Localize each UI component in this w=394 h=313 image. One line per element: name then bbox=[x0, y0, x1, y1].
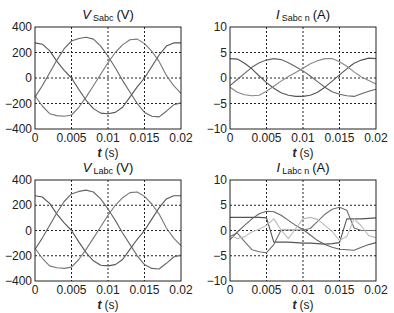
y-tick-label: −400 bbox=[5, 274, 32, 288]
x-tick-label: 0.02 bbox=[169, 131, 193, 145]
x-tick-label: 0.01 bbox=[96, 131, 120, 145]
y-tick-label: −400 bbox=[5, 122, 32, 136]
y-tick-label: −10 bbox=[207, 274, 228, 288]
x-axis-label: t(s) bbox=[293, 298, 314, 312]
y-tick-label: 200 bbox=[12, 46, 32, 60]
x-axis-label: t(s) bbox=[293, 146, 314, 160]
x-axis-label: t(s) bbox=[98, 146, 119, 160]
y-tick-label: 0 bbox=[220, 71, 227, 85]
chart-title: ILabc n(A) bbox=[277, 160, 330, 176]
x-axis-unit: (s) bbox=[300, 298, 314, 312]
y-tick-label: −200 bbox=[5, 249, 32, 263]
x-tick-label: 0.005 bbox=[251, 131, 281, 145]
chart-panel-source-current: ISabc n(A)00.0050.010.0150.02−10−50510t(… bbox=[207, 7, 388, 160]
chart-title: VSabc(V) bbox=[82, 7, 134, 23]
x-tick-label: 0 bbox=[32, 131, 39, 145]
title-unit: (V) bbox=[116, 160, 133, 175]
title-variable: I bbox=[276, 7, 280, 22]
chart-panel-load-current: ILabc n(A)00.0050.010.0150.02−10−50510t(… bbox=[207, 160, 388, 312]
title-variable: V bbox=[83, 160, 93, 175]
y-tick-label: −5 bbox=[213, 249, 227, 263]
y-tick-label: 0 bbox=[220, 224, 227, 238]
title-unit: (A) bbox=[312, 160, 329, 175]
title-subscript: Sabc n bbox=[282, 13, 310, 23]
title-subscript: Sabc bbox=[93, 13, 114, 23]
x-tick-label: 0.005 bbox=[56, 283, 86, 297]
x-axis-unit: (s) bbox=[105, 146, 119, 160]
title-variable: I bbox=[277, 160, 281, 175]
x-tick-label: 0.005 bbox=[56, 131, 86, 145]
figure: VSabc(V)00.0050.010.0150.02−400−20002004… bbox=[0, 0, 394, 313]
x-tick-label: 0.02 bbox=[364, 131, 388, 145]
title-unit: (V) bbox=[116, 7, 133, 22]
title-variable: V bbox=[82, 7, 92, 22]
x-axis-unit: (s) bbox=[105, 298, 119, 312]
y-tick-label: −5 bbox=[213, 97, 227, 111]
y-tick-label: 400 bbox=[12, 173, 32, 187]
chart-panel-load-voltage: VLabc(V)00.0050.010.0150.02−400−20002004… bbox=[5, 160, 193, 312]
x-axis-variable: t bbox=[98, 146, 103, 160]
title-subscript: Labc bbox=[93, 166, 113, 176]
x-tick-label: 0 bbox=[227, 131, 234, 145]
x-tick-label: 0 bbox=[227, 283, 234, 297]
y-tick-label: 400 bbox=[12, 20, 32, 34]
x-tick-label: 0.01 bbox=[291, 131, 315, 145]
y-tick-label: 5 bbox=[220, 198, 227, 212]
x-axis-variable: t bbox=[293, 298, 298, 312]
x-tick-label: 0.02 bbox=[364, 283, 388, 297]
x-tick-label: 0.015 bbox=[129, 283, 159, 297]
y-tick-label: 10 bbox=[214, 173, 228, 187]
x-axis-variable: t bbox=[293, 146, 298, 160]
x-tick-label: 0.01 bbox=[291, 283, 315, 297]
y-tick-label: 10 bbox=[214, 20, 228, 34]
y-tick-label: −10 bbox=[207, 122, 228, 136]
y-tick-label: 0 bbox=[25, 71, 32, 85]
x-tick-label: 0.015 bbox=[129, 131, 159, 145]
x-tick-label: 0.01 bbox=[96, 283, 120, 297]
title-unit: (A) bbox=[313, 7, 330, 22]
chart-panel-source-voltage: VSabc(V)00.0050.010.0150.02−400−20002004… bbox=[5, 7, 193, 160]
title-subscript: Labc n bbox=[282, 166, 309, 176]
x-axis-variable: t bbox=[98, 298, 103, 312]
x-tick-label: 0.02 bbox=[169, 283, 193, 297]
y-tick-label: 200 bbox=[12, 198, 32, 212]
x-axis-label: t(s) bbox=[98, 298, 119, 312]
x-axis-unit: (s) bbox=[300, 146, 314, 160]
x-tick-label: 0 bbox=[32, 283, 39, 297]
x-tick-label: 0.005 bbox=[251, 283, 281, 297]
x-tick-label: 0.015 bbox=[324, 131, 354, 145]
y-tick-label: 0 bbox=[25, 224, 32, 238]
chart-title: VLabc(V) bbox=[83, 160, 134, 176]
y-tick-label: −200 bbox=[5, 97, 32, 111]
y-tick-label: 5 bbox=[220, 46, 227, 60]
chart-title: ISabc n(A) bbox=[276, 7, 330, 23]
x-tick-label: 0.015 bbox=[324, 283, 354, 297]
